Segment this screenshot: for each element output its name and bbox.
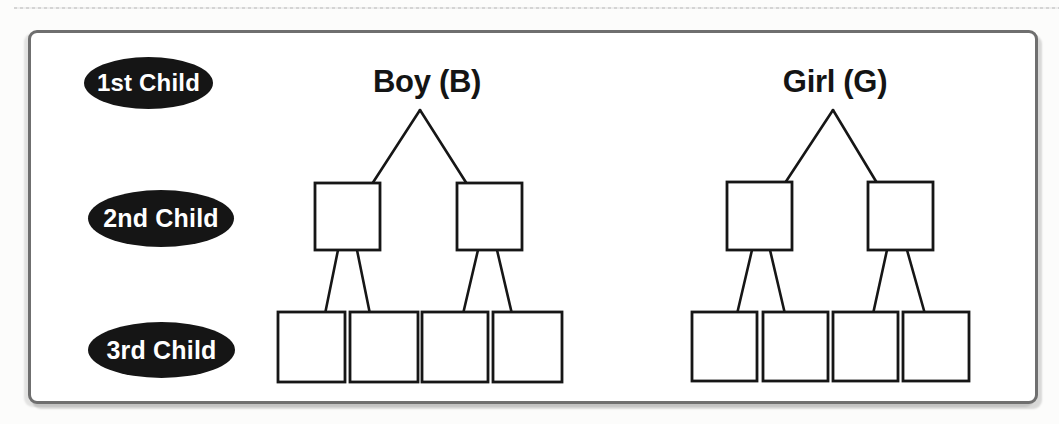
boy-branch-root-right [420, 110, 467, 184]
girl-branch-l2b-left [873, 250, 887, 314]
scanned-figure: 1st Child 2nd Child 3rd Child Boy (B) Gi… [0, 0, 1059, 424]
boy-child2-box-1 [315, 183, 380, 250]
boy-child3-box-2 [350, 312, 418, 382]
boy-child2-box-2 [457, 183, 522, 250]
boy-child3-box-3 [422, 312, 488, 382]
girl-child2-box-1 [727, 182, 792, 250]
girl-branch-root-right [833, 110, 877, 183]
girl-child3-box-2 [763, 312, 828, 381]
girl-child3-box-3 [833, 312, 898, 381]
girl-branch-l2a-right [770, 250, 785, 314]
boy-branch-l2a-left [325, 250, 338, 314]
girl-branch-l2a-left [737, 250, 752, 314]
boy-child3-box-4 [493, 312, 562, 382]
girl-child3-box-4 [903, 312, 969, 381]
boy-branch-l2a-right [357, 250, 370, 314]
girl-child3-box-1 [692, 312, 757, 381]
boy-branch-l2b-left [463, 250, 478, 314]
girl-branch-l2b-right [907, 250, 925, 314]
boy-branch-l2b-right [497, 250, 512, 314]
boy-branch-root-left [372, 110, 420, 184]
girl-child2-box-2 [868, 182, 933, 250]
girl-branch-root-left [785, 110, 833, 183]
boy-child3-box-1 [278, 312, 345, 382]
tree-diagram [0, 0, 1059, 424]
